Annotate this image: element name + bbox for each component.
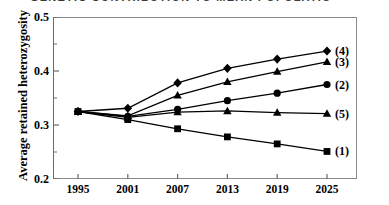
series-label-2: (2) — [335, 79, 349, 91]
x-tick-label: 2025 — [301, 182, 353, 196]
x-tick-label: 1995 — [52, 182, 104, 196]
x-axis-tick-labels: 199520012007201320192025 — [0, 182, 389, 200]
series-label-3: (3) — [335, 56, 349, 68]
series-label-5: (5) — [335, 108, 349, 120]
x-tick-label: 2007 — [152, 182, 204, 196]
series-end-labels: (4)(3)(2)(5)(1) — [0, 0, 389, 205]
chart-figure: GENETIC CONTRIBUTION TO MEAN POPULATION … — [0, 0, 389, 205]
x-tick-label: 2001 — [102, 182, 154, 196]
series-label-1: (1) — [335, 145, 349, 157]
x-tick-label: 2013 — [201, 182, 253, 196]
x-tick-label: 2019 — [251, 182, 303, 196]
